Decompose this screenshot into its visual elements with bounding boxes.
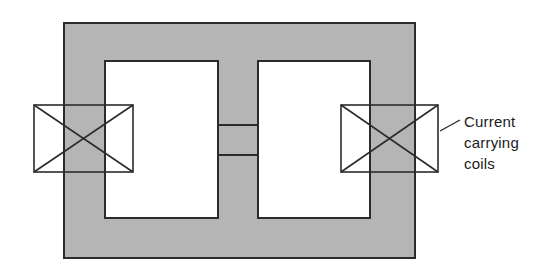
core-group — [64, 23, 415, 258]
annotation-leader-line — [440, 120, 460, 131]
diagram-canvas: Current carrying coils — [0, 0, 547, 278]
coils-annotation: Current carrying coils — [440, 113, 519, 172]
magnetic-core-diagram: Current carrying coils — [0, 0, 547, 278]
annotation-line-carrying: carrying — [464, 134, 519, 151]
annotation-line-current: Current — [464, 113, 516, 130]
annotation-line-coils: coils — [464, 155, 495, 172]
magnetic-core-body — [64, 23, 415, 258]
